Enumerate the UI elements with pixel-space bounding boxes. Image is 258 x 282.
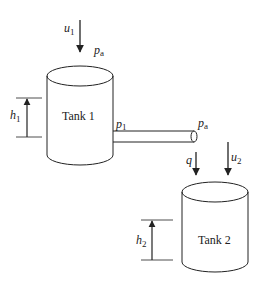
tank-1-label: Tank 1 xyxy=(62,109,95,123)
svg-text:h1: h1 xyxy=(10,108,21,124)
h1-level-indicator: h1 xyxy=(10,98,42,137)
outlet-pipe xyxy=(113,131,197,142)
u1-inflow-arrow: u1 xyxy=(64,20,80,52)
u2-inflow-arrow: u2 xyxy=(228,142,242,175)
two-tank-diagram: Tank 1 u1 pa h1 p1 pa q u2 Tank 2 xyxy=(0,0,258,282)
tank-1: Tank 1 xyxy=(47,66,113,165)
tank-2-label: Tank 2 xyxy=(198,233,231,247)
q-flow-arrow: q xyxy=(186,152,196,175)
h2-level-indicator: h2 xyxy=(136,220,173,260)
q-label: q xyxy=(186,153,192,167)
pa-pipe-label: pa xyxy=(197,116,208,131)
svg-text:u1: u1 xyxy=(64,21,75,37)
pa-top-label: pa xyxy=(93,43,104,58)
tank-2: Tank 2 xyxy=(182,182,248,272)
svg-text:h2: h2 xyxy=(136,233,147,249)
p1-label: p1 xyxy=(115,117,127,132)
svg-text:u2: u2 xyxy=(231,150,242,166)
